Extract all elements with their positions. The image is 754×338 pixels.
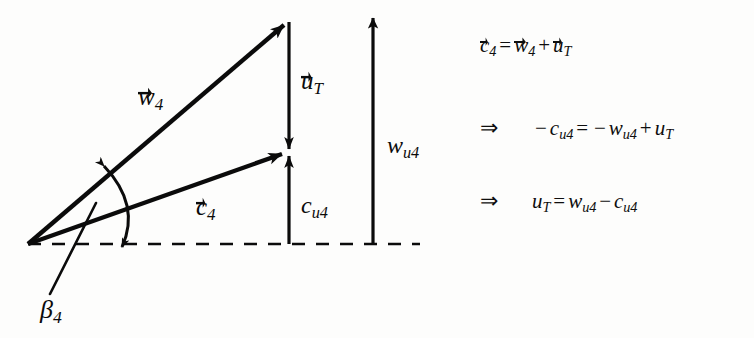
- equation-1: c 4= w 4+ u T: [480, 35, 571, 56]
- eq1-equals: =: [496, 33, 514, 57]
- label-angle-beta4: β4: [40, 297, 62, 323]
- label-beta4-base: β: [40, 295, 53, 324]
- eq3-u: u: [532, 189, 543, 213]
- eq2-u-sub: T: [665, 126, 673, 142]
- vector-overarrow-icon: [196, 187, 206, 199]
- eq2-w: w: [609, 116, 623, 140]
- eq2-c: c: [550, 116, 559, 140]
- vector-overarrow-icon: [480, 29, 488, 39]
- eq3-u-sub: T: [543, 199, 551, 215]
- eq2-c-sub: u4: [559, 126, 573, 142]
- label-wu4-base: w: [387, 132, 403, 158]
- label-w4-subscript: 4: [155, 95, 163, 114]
- label-component-cu4: cu4: [301, 193, 328, 217]
- vector-c4: [28, 154, 282, 244]
- eq3-implies-icon: ⇒: [480, 190, 532, 212]
- eq3-c-sub: u4: [623, 199, 637, 215]
- eq1-c-sub: 4: [489, 43, 496, 59]
- label-cu4-subscript: u4: [312, 203, 328, 222]
- figure-canvas: w 4 c 4 u T cu4 wu4: [0, 0, 754, 338]
- eq2-equals: =: [573, 116, 591, 140]
- eq1-plus: +: [535, 33, 553, 57]
- vector-overarrow-icon: [138, 77, 152, 89]
- vector-diagram: [0, 0, 754, 338]
- label-c4-subscript: 4: [207, 205, 215, 224]
- eq2-u: u: [655, 116, 666, 140]
- eq1-w-sub: 4: [528, 43, 535, 59]
- label-vector-w4: w 4: [138, 84, 163, 109]
- vector-overarrow-icon: [553, 29, 562, 39]
- vector-overarrow-icon: [301, 61, 312, 73]
- label-cu4-base: c: [301, 192, 312, 218]
- equation-3: ⇒uT=wu4−cu4: [480, 190, 637, 212]
- label-wu4-subscript: u4: [403, 143, 419, 162]
- eq3-equals: =: [550, 189, 568, 213]
- label-component-wu4: wu4: [387, 133, 419, 157]
- eq2-w-sub: u4: [623, 126, 637, 142]
- eq2-plus: +: [637, 116, 655, 140]
- label-vector-c4: c 4: [196, 194, 215, 219]
- vector-overarrow-icon: [514, 29, 526, 39]
- vector-w4: [28, 25, 284, 244]
- eq2-implies-icon: ⇒: [480, 117, 532, 139]
- label-vector-uT: u T: [301, 68, 323, 93]
- label-beta4-subscript: 4: [53, 307, 62, 327]
- label-uT-subscript: T: [314, 79, 323, 98]
- eq3-minus: −: [596, 189, 614, 213]
- eq3-w: w: [568, 189, 582, 213]
- eq3-c: c: [614, 189, 623, 213]
- eq3-w-sub: u4: [582, 199, 596, 215]
- eq1-u-sub: T: [564, 43, 572, 59]
- eq2-minus-2: −: [591, 116, 609, 140]
- eq2-minus-1: −: [532, 116, 550, 140]
- equation-2: ⇒−cu4=−wu4+uT: [480, 117, 673, 139]
